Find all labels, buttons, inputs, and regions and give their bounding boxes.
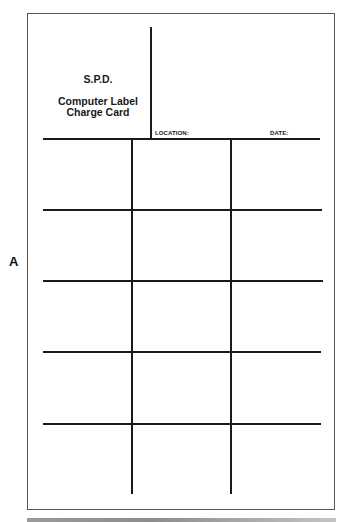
grid-row-line-5	[43, 423, 321, 425]
card-title-block: S.P.D. Computer Label Charge Card	[50, 73, 146, 118]
bottom-rule	[27, 518, 336, 522]
org-name: S.P.D.	[50, 73, 146, 86]
grid-row-line-4	[43, 351, 321, 353]
location-label: LOCATION:	[155, 130, 189, 136]
grid-col-line-1	[131, 139, 133, 494]
figure-label-a: A	[9, 254, 18, 269]
header-divider	[150, 27, 152, 140]
grid-col-line-2	[230, 139, 232, 494]
grid-row-line-3	[43, 280, 323, 282]
card-title-line2: Charge Card	[50, 107, 146, 118]
grid-row-line-1	[43, 138, 320, 140]
date-label: DATE:	[270, 130, 288, 136]
grid-row-line-2	[43, 209, 322, 211]
